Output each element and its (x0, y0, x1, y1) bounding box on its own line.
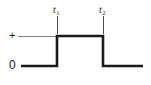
time-label-t2-subscript: 2 (102, 9, 105, 16)
baseline-level-label: 0 (9, 59, 16, 71)
waveform-plot-area (0, 0, 151, 85)
pulse-waveform-figure: + 0 t1 t2 (0, 0, 151, 85)
time-label-t2: t2 (99, 5, 105, 15)
pulse-trace (21, 36, 143, 66)
time-label-t1: t1 (53, 5, 59, 15)
amplitude-level-label: + (9, 30, 15, 41)
time-label-t1-subscript: 1 (56, 9, 59, 16)
